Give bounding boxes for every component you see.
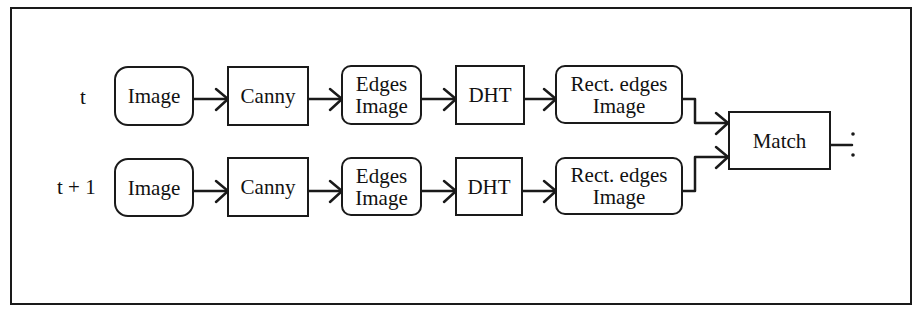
node-label: Image	[128, 85, 180, 107]
node-label: DHT	[467, 176, 510, 198]
arrow-row1-rect-to-match	[683, 99, 728, 134]
node-dht-t: DHT	[455, 65, 525, 125]
node-edges-image-t: Edges Image	[341, 65, 422, 125]
node-rect-edges-image-t1: Rect. edges Image	[555, 157, 683, 215]
node-match: Match	[728, 111, 831, 170]
node-image-t: Image	[114, 66, 194, 126]
arrow-row2-image-to-canny	[194, 181, 228, 202]
node-label: Rect. edges Image	[571, 73, 668, 117]
node-dht-t1: DHT	[455, 157, 523, 216]
node-rect-edges-image-t: Rect. edges Image	[555, 65, 683, 124]
node-edges-image-t1: Edges Image	[341, 157, 422, 216]
arrow-row2-dht-to-rect	[522, 181, 556, 202]
node-label: Rect. edges Image	[571, 164, 668, 208]
arrow-row1-image-to-canny	[194, 89, 228, 110]
node-label: Canny	[241, 85, 296, 107]
node-label: Canny	[241, 176, 296, 198]
row-label-t-plus-1: t + 1	[57, 176, 96, 198]
node-image-t1: Image	[114, 158, 194, 217]
node-canny-t: Canny	[227, 66, 309, 126]
node-label: Edges Image	[355, 73, 407, 117]
node-label: DHT	[468, 84, 511, 106]
arrow-row2-canny-to-edges	[309, 181, 342, 202]
arrow-row2-edges-to-dht	[422, 181, 456, 202]
row-label-t: t	[80, 86, 86, 108]
node-label: Image	[128, 177, 180, 199]
node-canny-t1: Canny	[227, 157, 309, 217]
arrow-row1-canny-to-edges	[309, 89, 342, 110]
arrow-row1-dht-to-rect	[524, 89, 556, 110]
arrow-row1-edges-to-dht	[422, 89, 456, 110]
node-label: Edges Image	[355, 165, 407, 209]
arrow-row2-rect-to-match	[683, 147, 728, 191]
node-label: Match	[753, 130, 807, 152]
